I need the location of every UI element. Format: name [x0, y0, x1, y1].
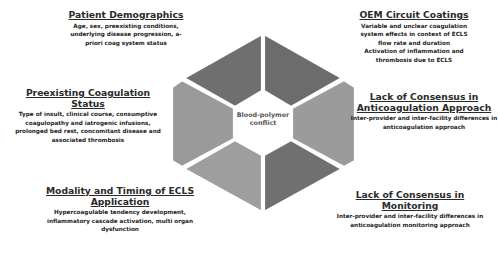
oem-circuit-coatings-desc: Variable and unclear coagulation system … [330, 22, 498, 65]
lack-consensus-anticoagulation-title: Lack of Consensus in Anticoagulation App… [350, 92, 498, 113]
oem-line: thrombosis due to ECLS [330, 56, 498, 65]
oem-circuit-coatings-block: OEM Circuit Coatings Variable and unclea… [330, 10, 498, 64]
lack-consensus-monitoring-desc: Inter-provider and inter-facility differ… [336, 212, 484, 229]
patient-demographics-block: Patient Demographics Age, sex, preexisti… [62, 10, 190, 47]
lack-consensus-anticoagulation-desc: Inter-provider and inter-facility differ… [350, 114, 498, 131]
preexisting-coagulation-desc: Type of insult, clinical course, consump… [12, 110, 164, 144]
modality-timing-desc: Hypercoagulable tendency development, in… [40, 208, 200, 234]
preexisting-coagulation-title: Preexisting Coagulation Status [12, 88, 164, 109]
oem-line: flow rate and duration [330, 39, 498, 48]
preexisting-coagulation-block: Preexisting Coagulation Status Type of i… [12, 88, 164, 144]
lack-consensus-monitoring-block: Lack of Consensus in Monitoring Inter-pr… [336, 190, 484, 229]
oem-line: system effects in context of ECLS [330, 30, 498, 39]
lack-consensus-monitoring-title: Lack of Consensus in Monitoring [336, 190, 484, 211]
oem-circuit-coatings-title: OEM Circuit Coatings [330, 10, 498, 21]
modality-timing-title: Modality and Timing of ECLS Application [40, 186, 200, 207]
lack-consensus-anticoagulation-block: Lack of Consensus in Anticoagulation App… [350, 92, 498, 131]
patient-demographics-title: Patient Demographics [62, 10, 190, 21]
oem-line: Activation of inflammation and [330, 47, 498, 56]
center-label: Blood-polymer conflict [228, 111, 298, 127]
patient-demographics-desc: Age, sex, preexisting conditions, underl… [62, 22, 190, 48]
modality-timing-block: Modality and Timing of ECLS Application … [40, 186, 200, 234]
oem-line: Variable and unclear coagulation [330, 22, 498, 31]
